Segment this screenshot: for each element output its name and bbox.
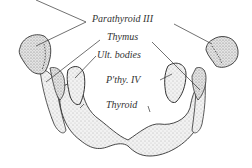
pharyngeal-derivatives-figure: Parathyroid III Thymus Ult. bodies P'thy…: [0, 0, 252, 168]
leader-parathyroid-iii-left: [36, 0, 86, 22]
label-parathyroid-iii: Parathyroid III: [92, 14, 153, 24]
leader-thyroid-right-line: [148, 106, 150, 112]
leader-parathyroid-iii-left-line: [36, 22, 86, 46]
label-ult-bodies: Ult. bodies: [97, 50, 141, 60]
left-parathyroid-iii-shape: [19, 35, 51, 74]
leader-parathyroid-iii-right-line: [174, 24, 212, 44]
label-thymus: Thymus: [107, 32, 138, 42]
right-parathyroid-iii-shape: [206, 37, 238, 68]
label-pthy-iv: P'thy. IV: [106, 75, 140, 85]
right-ult-body-shape: [165, 63, 186, 102]
label-thyroid: Thyroid: [106, 100, 137, 110]
